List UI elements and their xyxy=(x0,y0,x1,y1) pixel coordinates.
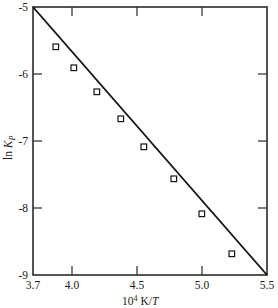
x-tick-label-1: 4.0 xyxy=(65,279,80,291)
data-point-4 xyxy=(141,144,147,150)
svg-text:104 K/T: 104 K/T xyxy=(122,294,160,307)
x-tick-label-4: 5.5 xyxy=(260,279,275,291)
data-point-3 xyxy=(118,116,124,122)
chart-svg: 3.7 4.0 4.5 5.0 5.5 -5 -6 -7 -8 -9 104 K… xyxy=(0,0,278,308)
x-tick-label-2: 4.5 xyxy=(130,279,145,291)
data-point-2 xyxy=(94,89,100,95)
x-axis-title-unit-k: K/ xyxy=(140,295,152,307)
data-point-5 xyxy=(171,176,177,182)
y-axis-title-sub: P xyxy=(8,136,17,142)
data-point-1 xyxy=(71,65,77,71)
y-tick-label-0: -5 xyxy=(18,1,28,13)
y-tick-label-1: -6 xyxy=(18,68,28,80)
y-tick-label-3: -8 xyxy=(18,202,28,214)
x-tick-label-3: 5.0 xyxy=(195,279,210,291)
x-axis-title: 104 K/T xyxy=(122,294,160,307)
x-tick-label-0: 3.7 xyxy=(26,279,41,291)
data-point-0 xyxy=(53,44,59,50)
chart-background xyxy=(0,0,278,308)
y-axis-title-ln: ln xyxy=(2,148,14,160)
data-point-7 xyxy=(229,251,235,257)
y-tick-label-4: -9 xyxy=(18,269,28,281)
x-axis-title-base: 10 xyxy=(122,295,134,307)
y-tick-label-2: -7 xyxy=(18,135,28,147)
chart-figure: 3.7 4.0 4.5 5.0 5.5 -5 -6 -7 -8 -9 104 K… xyxy=(0,0,278,308)
data-point-6 xyxy=(199,211,205,217)
